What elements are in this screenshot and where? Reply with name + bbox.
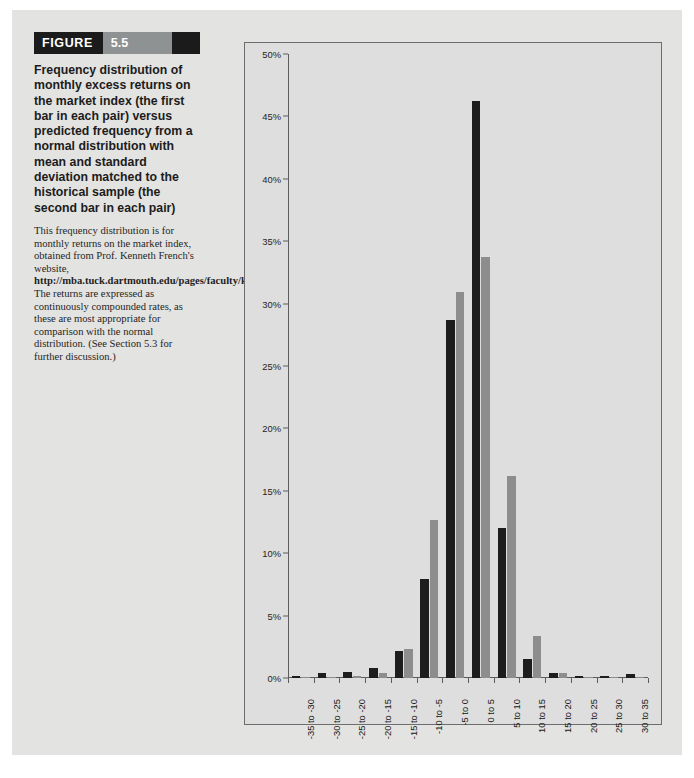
bar-historical xyxy=(420,579,429,678)
bar-normal xyxy=(507,476,516,678)
bar-normal xyxy=(636,677,645,678)
x-axis-tick-mark xyxy=(494,678,495,683)
figure-note: This frequency distribution is for month… xyxy=(34,225,200,364)
bar-historical xyxy=(318,673,327,678)
x-axis-tick-label: -10 to -5 xyxy=(433,699,444,734)
x-axis-tick-label: 10 to 15 xyxy=(536,699,547,733)
bar-historical xyxy=(343,672,352,678)
x-axis-tick-label: -35 to -30 xyxy=(305,699,316,739)
bar-series-container xyxy=(288,54,648,678)
figure-note-text-after: The returns are expressed as continuousl… xyxy=(34,288,183,362)
x-axis-tick-label: -30 to -25 xyxy=(331,699,342,739)
bar-historical xyxy=(292,676,301,678)
x-axis-tick-mark xyxy=(571,678,572,683)
x-axis-tick-mark xyxy=(468,678,469,683)
x-axis-tick-mark xyxy=(417,678,418,683)
bar-normal xyxy=(610,677,619,678)
figure-page: FIGURE 5.5 Frequency distribution of mon… xyxy=(0,0,694,778)
bar-historical xyxy=(498,528,507,678)
bar-normal xyxy=(481,257,490,678)
bar-normal xyxy=(353,676,362,678)
bar-normal xyxy=(327,677,336,678)
x-axis-tick-label: 20 to 25 xyxy=(588,699,599,733)
x-axis-tick-label: -25 to -20 xyxy=(356,699,367,739)
x-axis-tick-label: 5 to 10 xyxy=(511,699,522,728)
bar-historical xyxy=(575,676,584,678)
bar-normal xyxy=(301,677,310,678)
bar-normal xyxy=(533,636,542,678)
x-axis-tick-mark xyxy=(442,678,443,683)
caption-column: FIGURE 5.5 Frequency distribution of mon… xyxy=(34,32,206,364)
figure-number: 5.5 xyxy=(103,32,172,54)
bar-historical xyxy=(395,651,404,678)
x-axis-tick-mark xyxy=(314,678,315,683)
x-axis-tick-label: -20 to -15 xyxy=(382,699,393,739)
bar-normal xyxy=(559,673,568,678)
x-axis-tick-mark xyxy=(339,678,340,683)
bar-normal xyxy=(430,520,439,678)
x-axis-tick-mark xyxy=(519,678,520,683)
x-axis-tick-mark xyxy=(597,678,598,683)
x-axis-tick-label: -5 to 0 xyxy=(459,699,470,726)
bar-historical xyxy=(472,101,481,678)
bar-historical xyxy=(626,674,635,678)
chart-panel: 50%45%40%35%30%25%20%15%10%5%0% -35 to -… xyxy=(244,42,662,725)
figure-inner-panel: FIGURE 5.5 Frequency distribution of mon… xyxy=(12,10,682,755)
x-axis-tick-label: -15 to -10 xyxy=(408,699,419,739)
bar-historical xyxy=(523,659,532,678)
figure-note-text-before: This frequency distribution is for month… xyxy=(34,225,194,274)
bar-normal xyxy=(379,673,388,678)
x-axis-tick-mark xyxy=(648,678,649,683)
bar-historical xyxy=(549,673,558,678)
x-axis-tick-mark xyxy=(622,678,623,683)
x-axis-tick-mark xyxy=(545,678,546,683)
figure-banner-label: FIGURE xyxy=(34,36,93,50)
figure-banner: FIGURE 5.5 xyxy=(34,32,200,54)
x-axis-tick-label: 15 to 20 xyxy=(562,699,573,733)
bar-historical xyxy=(600,676,609,678)
x-axis-tick-label: 0 to 5 xyxy=(485,699,496,722)
x-axis-tick-mark xyxy=(365,678,366,683)
bar-historical xyxy=(446,320,455,678)
bar-normal xyxy=(456,292,465,678)
bar-historical xyxy=(369,668,378,678)
x-axis-tick-mark xyxy=(391,678,392,683)
plot-area: 50%45%40%35%30%25%20%15%10%5%0% xyxy=(288,54,648,678)
bar-normal xyxy=(584,677,593,678)
x-axis-tick-label: 30 to 35 xyxy=(639,699,650,733)
x-axis-tick-mark xyxy=(288,678,289,683)
x-axis-tick-label: 25 to 30 xyxy=(613,699,624,733)
figure-title: Frequency distribution of monthly excess… xyxy=(34,63,202,216)
bar-normal xyxy=(404,649,413,678)
